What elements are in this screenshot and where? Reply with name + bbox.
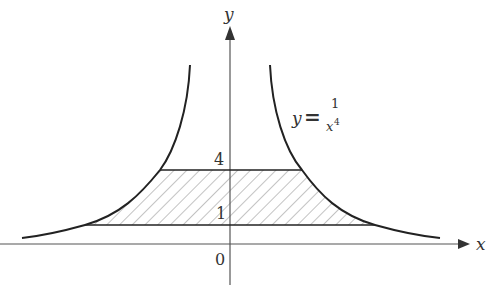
origin-label: 0 bbox=[215, 250, 225, 269]
svg-text:1: 1 bbox=[331, 96, 339, 111]
svg-text:4: 4 bbox=[334, 117, 340, 127]
equation-label: y = 1 x 4 bbox=[291, 96, 340, 134]
svg-text:=: = bbox=[304, 105, 321, 129]
y-axis-label: y bbox=[223, 4, 234, 24]
y-axis bbox=[225, 26, 235, 285]
y-tick-4: 4 bbox=[214, 150, 224, 169]
x-axis-label: x bbox=[476, 234, 486, 254]
graph: y x 0 4 1 y = 1 x 4 bbox=[0, 0, 495, 294]
x-axis bbox=[0, 239, 470, 249]
svg-text:y: y bbox=[291, 108, 302, 128]
y-tick-1: 1 bbox=[216, 204, 226, 223]
svg-text:x: x bbox=[326, 119, 334, 134]
